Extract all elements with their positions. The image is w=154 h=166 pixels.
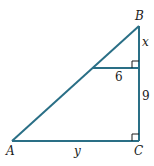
label-y: y: [73, 144, 81, 158]
right-angle-mark-inner: [132, 61, 139, 68]
vertex-label-c: C: [134, 144, 143, 158]
vertex-label-a: A: [5, 144, 15, 158]
label-6: 6: [115, 70, 123, 84]
right-angle-mark-c: [132, 134, 139, 141]
label-9: 9: [142, 89, 150, 103]
triangle-diagram: B A C x 6 9 y: [0, 0, 154, 166]
label-x: x: [142, 35, 149, 49]
vertex-label-b: B: [134, 9, 144, 23]
